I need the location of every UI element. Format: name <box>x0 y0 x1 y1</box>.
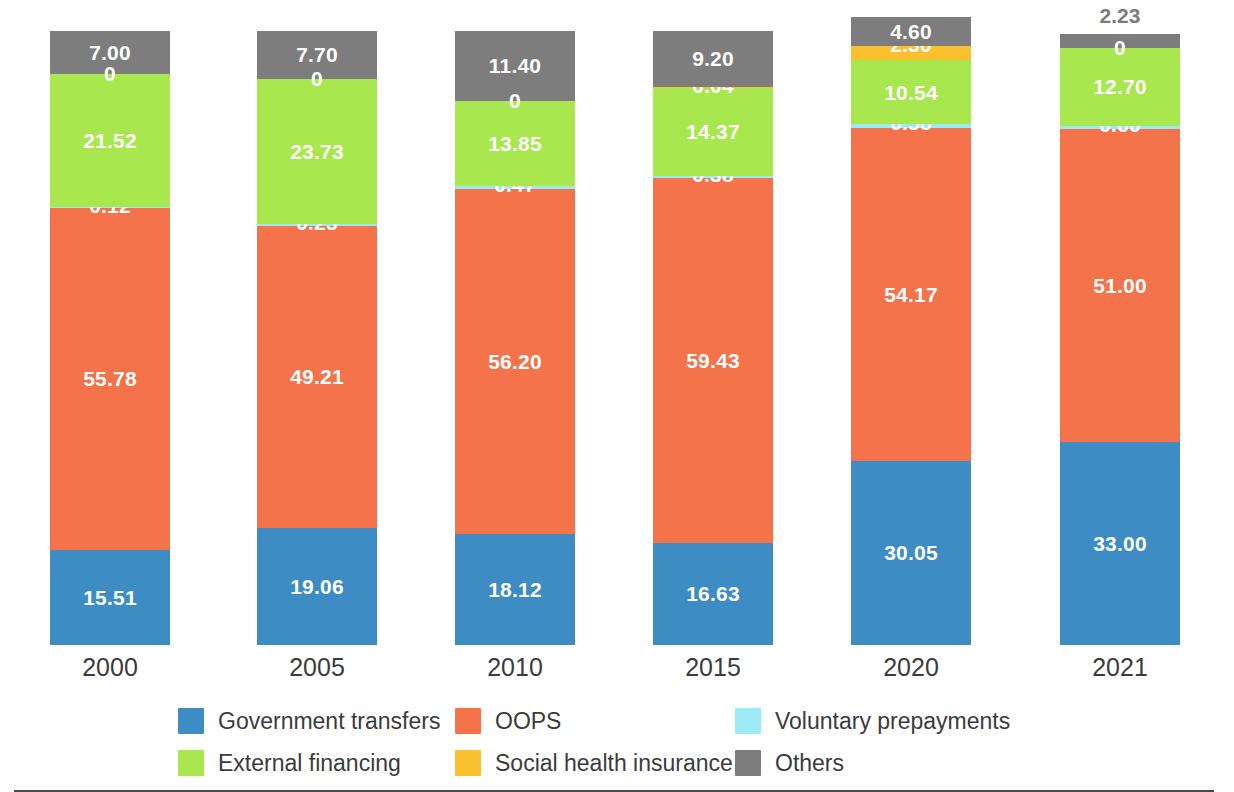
bar-segment-value-label: 54.17 <box>884 284 938 305</box>
legend-item[interactable]: Social health insurance <box>455 748 733 778</box>
stacked-bar[interactable]: 15.5155.780.1221.5207.000 <box>50 31 170 645</box>
legend-item[interactable]: Voluntary prepayments <box>735 706 1010 736</box>
bar-segment-value-label: 13.85 <box>488 133 542 154</box>
bar-segment[interactable]: 51.00 <box>1060 129 1180 442</box>
bar-segment-value-label: 12.70 <box>1093 76 1147 97</box>
bar-segment-value-label: 56.20 <box>488 351 542 372</box>
bar-group: 15.5155.780.1221.5207.000 <box>50 31 170 645</box>
zero-value-label: 0 <box>455 90 575 111</box>
bar-segment-value-label: 7.70 <box>296 44 338 65</box>
bar-segment[interactable]: 18.12 <box>455 534 575 645</box>
bar-segment-value-label: 49.21 <box>290 366 344 387</box>
bar-group: 33.0051.000.6012.7002.2302.23 <box>1060 34 1180 645</box>
bar-segment-value-label: 10.54 <box>884 82 938 103</box>
bar-segment[interactable]: 49.21 <box>257 226 377 528</box>
x-axis-tick-2000: 2000 <box>30 655 190 680</box>
legend-swatch-icon <box>455 750 481 776</box>
legend-label: Government transfers <box>218 710 440 733</box>
bar-segment-value-label: 18.12 <box>488 579 542 600</box>
legend-item[interactable]: External financing <box>178 748 401 778</box>
bar-segment[interactable]: 0.60 <box>1060 126 1180 130</box>
bar-segment-value-label: 11.40 <box>489 55 541 76</box>
bar-segment[interactable]: 0.12 <box>50 207 170 208</box>
bar-segment-value-label: 15.51 <box>83 587 137 608</box>
x-axis-tick-2021: 2021 <box>1040 655 1200 680</box>
bar-segment[interactable]: 10.54 <box>851 60 971 125</box>
bar-segment-value-label: 21.52 <box>83 130 137 151</box>
x-axis-tick-2005: 2005 <box>237 655 397 680</box>
bar-segment[interactable]: 0.58 <box>851 124 971 128</box>
bar-segment[interactable]: 59.43 <box>653 178 773 543</box>
bar-segment[interactable]: 21.52 <box>50 74 170 206</box>
x-axis-tick-2010: 2010 <box>435 655 595 680</box>
bar-segment-value-label: 30.05 <box>884 542 938 563</box>
bar-segment[interactable]: 0.38 <box>653 176 773 178</box>
stacked-bar[interactable]: 19.0649.210.2523.7307.700 <box>257 31 377 645</box>
bar-segment-value-label: 14.37 <box>686 121 740 142</box>
bar-group: 16.6359.430.3814.370.049.20 <box>653 31 773 645</box>
bar-segment[interactable]: 13.85 <box>455 101 575 186</box>
bar-group: 18.1256.200.4713.85011.400 <box>455 31 575 645</box>
bar-segment[interactable]: 30.05 <box>851 461 971 646</box>
legend-item[interactable]: Others <box>735 748 844 778</box>
zero-value-label: 0 <box>50 63 170 84</box>
zero-value-label: 0 <box>257 68 377 89</box>
legend-item[interactable]: Government transfers <box>178 706 440 736</box>
stacked-bar[interactable]: 30.0554.170.5810.542.304.60 <box>851 17 971 645</box>
bar-segment[interactable]: 9.20 <box>653 31 773 87</box>
bar-segment-value-label: 19.06 <box>290 576 344 597</box>
legend-swatch-icon <box>178 750 204 776</box>
bar-group: 30.0554.170.5810.542.304.60 <box>851 17 971 645</box>
bar-segment[interactable]: 0.25 <box>257 224 377 226</box>
legend-label: Others <box>775 752 844 775</box>
bar-segment-value-label: 7.00 <box>89 42 131 63</box>
bar-segment[interactable]: 4.60 <box>851 17 971 45</box>
legend-item[interactable]: OOPS <box>455 706 561 736</box>
legend-swatch-icon <box>455 708 481 734</box>
bar-segment[interactable]: 33.00 <box>1060 442 1180 645</box>
bar-segment[interactable]: 15.51 <box>50 550 170 645</box>
chart-legend: Government transfersOOPSVoluntary prepay… <box>0 706 1234 786</box>
bar-segment-value-label: 59.43 <box>686 350 740 371</box>
bar-segment[interactable]: 14.37 <box>653 87 773 175</box>
plot-area: 15.5155.780.1221.5207.00019.0649.210.252… <box>0 0 1234 648</box>
legend-swatch-icon <box>178 708 204 734</box>
legend-label: OOPS <box>495 710 561 733</box>
bar-segment[interactable]: 0.47 <box>455 186 575 189</box>
outside-value-label: 2.23 <box>1060 5 1180 26</box>
bar-segment[interactable]: 56.20 <box>455 189 575 534</box>
stacked-bar[interactable]: 33.0051.000.6012.7002.2302.23 <box>1060 34 1180 645</box>
bar-segment-value-label: 33.00 <box>1093 533 1147 554</box>
bar-segment[interactable]: 2.30 <box>851 46 971 60</box>
bar-segment-value-label: 9.20 <box>692 48 734 69</box>
zero-value-label: 0 <box>1060 37 1180 58</box>
legend-label: Voluntary prepayments <box>775 710 1010 733</box>
bar-segment[interactable]: 12.70 <box>1060 48 1180 126</box>
bar-segment-value-label: 4.60 <box>890 21 932 42</box>
bar-segment-value-label: 55.78 <box>83 368 137 389</box>
stacked-bar[interactable]: 16.6359.430.3814.370.049.20 <box>653 31 773 645</box>
bar-segment-value-label: 23.73 <box>290 141 344 162</box>
x-axis-tick-2020: 2020 <box>831 655 991 680</box>
legend-swatch-icon <box>735 708 761 734</box>
bar-group: 19.0649.210.2523.7307.700 <box>257 31 377 645</box>
bar-segment-value-label: 16.63 <box>686 583 740 604</box>
bar-segment[interactable]: 16.63 <box>653 543 773 645</box>
x-axis-tick-labels: 200020052010201520202021 <box>0 655 1234 695</box>
bar-segment[interactable]: 23.73 <box>257 79 377 225</box>
legend-label: External financing <box>218 752 401 775</box>
chart-root: 15.5155.780.1221.5207.00019.0649.210.252… <box>0 0 1234 792</box>
bar-segment-value-label: 51.00 <box>1093 275 1147 296</box>
legend-label: Social health insurance <box>495 752 733 775</box>
bar-segment[interactable]: 19.06 <box>257 528 377 645</box>
bar-segment[interactable]: 54.17 <box>851 128 971 461</box>
stacked-bar[interactable]: 18.1256.200.4713.85011.400 <box>455 31 575 645</box>
bar-segment[interactable]: 55.78 <box>50 207 170 549</box>
x-axis-tick-2015: 2015 <box>633 655 793 680</box>
legend-swatch-icon <box>735 750 761 776</box>
